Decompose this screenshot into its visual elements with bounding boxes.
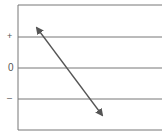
label-zero: 0 xyxy=(8,63,14,73)
label-positive: + xyxy=(7,32,12,41)
label-negative: – xyxy=(7,94,12,103)
double-headed-arrow xyxy=(37,28,102,115)
diagram-canvas xyxy=(0,0,166,133)
